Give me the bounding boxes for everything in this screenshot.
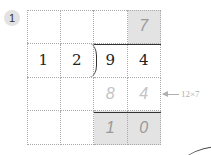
quotient-answer-cell[interactable]: 7 — [128, 10, 162, 44]
dividend-digit-1: 9 — [94, 44, 128, 78]
divisor-digit-1: 1 — [27, 44, 61, 78]
product-digit-2: 4 — [128, 78, 162, 112]
dividend-digit-2: 4 — [128, 44, 162, 78]
product-digit-1: 8 — [94, 78, 128, 112]
quotient-cell-2[interactable] — [61, 10, 95, 44]
problem-number-badge: 1 — [4, 10, 20, 26]
hint-text: 12×7 — [181, 89, 200, 99]
multiplication-hint: 12×7 — [163, 89, 200, 99]
quotient-cell-3[interactable] — [94, 10, 128, 44]
remainder-cell-2 — [61, 111, 95, 145]
remainder-answer-cell-2[interactable]: 0 — [128, 111, 162, 145]
divisor-digit-2: 2 — [61, 44, 95, 78]
product-cell-2 — [61, 78, 95, 112]
subtraction-line — [94, 112, 161, 114]
left-arrow-icon — [163, 94, 179, 95]
long-division-grid: 7 1 2 9 4 8 4 1 0 — [27, 10, 161, 145]
remainder-answer-cell-1[interactable]: 1 — [94, 111, 128, 145]
remainder-cell-1 — [27, 111, 61, 145]
product-cell-1 — [27, 78, 61, 112]
division-bar — [94, 44, 161, 46]
decorative-curve — [174, 146, 211, 155]
quotient-cell-1[interactable] — [27, 10, 61, 44]
